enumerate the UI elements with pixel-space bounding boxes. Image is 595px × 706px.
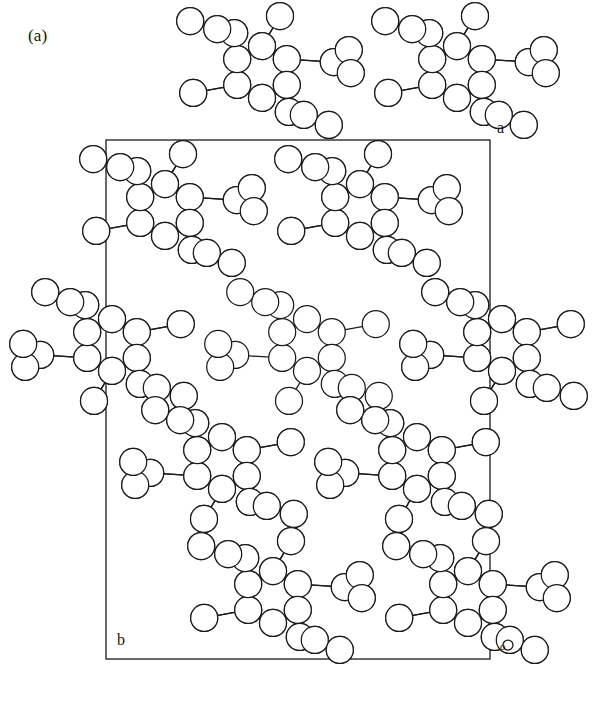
atom-circle bbox=[428, 462, 455, 489]
atom-circle bbox=[386, 604, 413, 631]
atom-circle bbox=[444, 33, 471, 60]
atom-circle bbox=[362, 407, 389, 434]
atom-circle bbox=[224, 46, 251, 73]
packing-diagram-canvas: a b o bbox=[0, 0, 595, 706]
atom-circle bbox=[472, 429, 499, 456]
atom-circle bbox=[337, 397, 364, 424]
atom-circle bbox=[81, 387, 108, 414]
atom-circle bbox=[468, 46, 495, 73]
atom-circle bbox=[365, 141, 392, 168]
atom-circle bbox=[252, 289, 279, 316]
atom-circle bbox=[74, 344, 101, 371]
atom-circle bbox=[107, 154, 134, 181]
atom-circle bbox=[209, 424, 236, 451]
atom-circle bbox=[294, 357, 321, 384]
atom-circle bbox=[419, 46, 446, 73]
atom-circle bbox=[233, 437, 260, 464]
atom-circle bbox=[269, 344, 296, 371]
atom-circle bbox=[74, 319, 101, 346]
atom-circle bbox=[489, 357, 516, 384]
atom-circle bbox=[170, 141, 197, 168]
atom-circle bbox=[277, 429, 304, 456]
panel-label: (a) bbox=[28, 26, 47, 46]
axis-label-b: b bbox=[117, 631, 125, 648]
atom-circle bbox=[235, 571, 262, 598]
atom-circle bbox=[294, 306, 321, 333]
atom-circle bbox=[80, 146, 107, 173]
atom-circle bbox=[176, 209, 203, 236]
atom-circle bbox=[430, 596, 457, 623]
atom-circle bbox=[302, 154, 329, 181]
atom-circle bbox=[379, 462, 406, 489]
atom-circle bbox=[475, 500, 502, 527]
atom-circle bbox=[267, 3, 294, 30]
atom-circle bbox=[318, 344, 345, 371]
atom-circle bbox=[326, 636, 353, 663]
atom-circle bbox=[127, 209, 154, 236]
atom-circle bbox=[32, 279, 59, 306]
atom-circle bbox=[435, 198, 462, 225]
atom-circle bbox=[521, 636, 548, 663]
atom-circle bbox=[348, 585, 375, 612]
atom-circle bbox=[404, 424, 431, 451]
atom-circle bbox=[152, 222, 179, 249]
atom-circle bbox=[479, 596, 506, 623]
atom-circle bbox=[83, 217, 110, 244]
atom-circle bbox=[260, 609, 287, 636]
atom-circle bbox=[233, 462, 260, 489]
atom-circle bbox=[560, 382, 587, 409]
atom-circle bbox=[447, 289, 474, 316]
axis-label-a: a bbox=[497, 119, 504, 136]
atom-circle bbox=[479, 571, 506, 598]
atom-circle bbox=[386, 505, 413, 532]
atom-circle bbox=[383, 533, 410, 560]
atom-circle bbox=[322, 209, 349, 236]
atom-circle bbox=[489, 306, 516, 333]
atom-circle bbox=[167, 407, 194, 434]
atom-circle bbox=[371, 209, 398, 236]
atom-circle bbox=[205, 330, 232, 357]
atom-circle bbox=[290, 101, 317, 128]
atom-circle bbox=[57, 289, 84, 316]
atom-circle bbox=[176, 184, 203, 211]
atom-circle bbox=[513, 319, 540, 346]
atom-circle bbox=[404, 475, 431, 502]
atom-circle bbox=[419, 71, 446, 98]
atom-circle bbox=[464, 344, 491, 371]
atom-circle bbox=[249, 33, 276, 60]
atom-circle bbox=[510, 111, 537, 138]
atom-circle bbox=[413, 249, 440, 276]
atom-circle bbox=[428, 437, 455, 464]
atom-circle bbox=[347, 222, 374, 249]
atom-circle bbox=[273, 71, 300, 98]
atom-circle bbox=[533, 374, 560, 401]
atom-circle bbox=[448, 492, 475, 519]
atom-circle bbox=[372, 8, 399, 35]
atom-circle bbox=[240, 198, 267, 225]
atom-circle bbox=[273, 46, 300, 73]
atom-circle bbox=[455, 558, 482, 585]
atom-circle bbox=[473, 528, 500, 555]
atom-circle bbox=[193, 239, 220, 266]
atom-circle bbox=[301, 626, 328, 653]
atom-circle bbox=[532, 60, 559, 87]
atom-circle bbox=[275, 146, 302, 173]
atom-circle bbox=[318, 319, 345, 346]
atom-circle bbox=[422, 279, 449, 306]
atom-circle bbox=[99, 357, 126, 384]
atom-circle bbox=[123, 344, 150, 371]
atom-circle bbox=[260, 558, 287, 585]
atom-circle bbox=[280, 500, 307, 527]
atom-circle bbox=[365, 382, 392, 409]
atom-circle bbox=[188, 533, 215, 560]
atom-circle bbox=[468, 71, 495, 98]
atom-circle bbox=[557, 311, 584, 338]
atom-circle bbox=[276, 387, 303, 414]
atom-circle bbox=[284, 596, 311, 623]
atom-circle bbox=[180, 79, 207, 106]
atom-circle bbox=[379, 437, 406, 464]
atom-circle bbox=[410, 541, 437, 568]
atom-circle bbox=[249, 84, 276, 111]
atom-circle bbox=[430, 571, 457, 598]
atom-circle bbox=[315, 448, 342, 475]
